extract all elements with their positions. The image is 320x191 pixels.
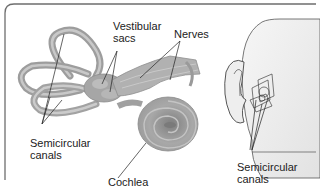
label-vestibular-sacs: Vestibular sacs bbox=[113, 20, 161, 44]
label-cochlea: Cochlea bbox=[108, 176, 148, 188]
label-semicircular-canals-left: Semicircular canals bbox=[30, 137, 91, 161]
label-semicircular-canals-right: Semicircular canals bbox=[237, 161, 298, 185]
inner-ear-diagram: Vestibular sacs Nerves Semicircular cana… bbox=[0, 0, 320, 191]
label-nerves: Nerves bbox=[174, 28, 209, 40]
head-illustration bbox=[225, 19, 320, 178]
